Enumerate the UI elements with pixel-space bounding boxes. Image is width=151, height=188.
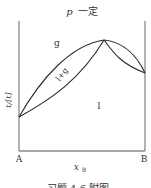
vapor-curve-right: [104, 40, 145, 73]
region-gas-label: g: [54, 38, 60, 48]
endpoint-b-label: B: [141, 154, 148, 164]
diagram-title: p 一定: [66, 5, 98, 17]
region-liquid-label: l: [98, 101, 101, 111]
x-axis-label-sub: B: [82, 166, 87, 173]
endpoint-a-label: A: [15, 154, 23, 164]
title-variable: p: [66, 6, 73, 17]
y-axis-label: t/[t]: [4, 91, 13, 107]
x-axis-label-main: x: [74, 162, 79, 172]
phase-diagram: p 一定 t/[t] g l+g l A B x B 习题 4-6 附图: [0, 0, 151, 188]
figure-caption: 习题 4-6 附图: [47, 182, 109, 188]
x-axis-label: x B: [74, 162, 87, 173]
title-text: 一定: [78, 5, 98, 17]
region-two-phase-label: l+g: [54, 66, 70, 83]
liquid-curve-right: [104, 40, 145, 73]
